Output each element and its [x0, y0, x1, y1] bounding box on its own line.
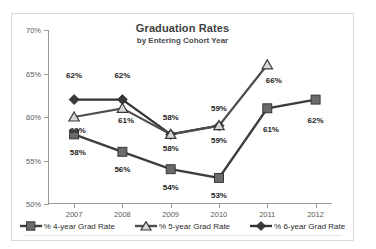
x-tick-2008: [122, 204, 123, 208]
legend-item-5year[interactable]: % 5-year Grad Rate: [135, 221, 230, 231]
data-label-6year-2007: 62%: [66, 71, 82, 80]
x-axis-label-2012: 2012: [307, 210, 324, 219]
diamond-marker-icon: [69, 95, 79, 105]
data-label-4year-2012: 62%: [308, 116, 324, 125]
data-label-4year-2008: 56%: [114, 165, 130, 174]
data-label-5year-2010: 59%: [211, 135, 227, 144]
triangle-marker-icon: [262, 60, 272, 69]
chart-legend: % 4-year Grad Rate % 5-year Grad Rate % …: [12, 221, 353, 231]
square-marker-icon: [166, 165, 175, 174]
data-label-5year-2007: 60%: [70, 126, 86, 135]
square-marker-icon: [215, 173, 224, 182]
x-tick-2012: [316, 204, 317, 208]
legend-item-4year[interactable]: % 4-year Grad Rate: [20, 221, 115, 231]
y-tick-50: [44, 204, 49, 205]
y-axis-label-70: 70%: [26, 26, 41, 35]
legend-label-4year: % 4-year Grad Rate: [44, 222, 115, 231]
square-marker-icon: [20, 221, 42, 231]
legend-label-5year: % 5-year Grad Rate: [159, 222, 230, 231]
series-svg: [48, 30, 332, 204]
triangle-marker-icon: [135, 221, 157, 231]
data-label-4year-2011: 61%: [263, 125, 279, 134]
x-axis-label-2007: 2007: [66, 210, 83, 219]
data-label-5year-2009: 58%: [163, 144, 179, 153]
square-marker-icon: [118, 147, 127, 156]
data-label-4year-2007: 58%: [70, 147, 86, 156]
legend-item-6year[interactable]: % 6-year Grad Rate: [250, 221, 345, 231]
x-tick-2011: [267, 204, 268, 208]
x-tick-2007: [74, 204, 75, 208]
x-tick-2010: [219, 204, 220, 208]
triangle-marker-icon: [117, 103, 127, 112]
y-axis-label-65: 65%: [26, 69, 41, 78]
x-axis-label-2008: 2008: [114, 210, 131, 219]
plot-area: 70% 65% 60% 55% 50% 2007 2008 2009 2010 …: [48, 30, 332, 204]
data-label-4year-2010: 53%: [211, 191, 227, 200]
data-label-6year-2009: 58%: [163, 113, 179, 122]
diamond-marker-icon: [250, 221, 272, 231]
square-marker-icon: [263, 104, 272, 113]
data-label-5year-2008: 61%: [118, 116, 134, 125]
data-label-6year-2010: 59%: [211, 104, 227, 113]
x-axis-label-2009: 2009: [162, 210, 179, 219]
x-axis-label-2010: 2010: [211, 210, 228, 219]
square-marker-icon: [311, 95, 320, 104]
y-axis-label-55: 55%: [26, 156, 41, 165]
y-axis-label-60: 60%: [26, 113, 41, 122]
legend-separator: [23, 235, 342, 236]
x-tick-2009: [171, 204, 172, 208]
data-label-4year-2009: 54%: [163, 182, 179, 191]
data-label-5year-2011: 66%: [266, 76, 282, 85]
y-axis-label-50: 50%: [26, 200, 41, 209]
chart-card: Graduation Rates by Entering Cohort Year…: [11, 13, 354, 241]
legend-label-6year: % 6-year Grad Rate: [274, 222, 345, 231]
data-label-6year-2008: 62%: [114, 71, 130, 80]
x-axis-label-2011: 2011: [259, 210, 275, 219]
